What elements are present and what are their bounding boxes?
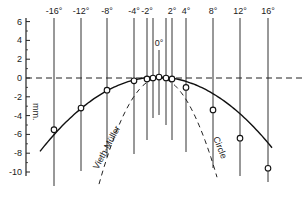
data-point [156, 74, 162, 80]
data-point [210, 107, 216, 113]
data-point [131, 78, 137, 84]
data-point [183, 85, 189, 91]
data-point [150, 75, 156, 81]
data-points [51, 74, 271, 171]
y-tick-label: 6 [17, 17, 22, 27]
angle-labels: -16°-12°-8°-4°-2°0°2°4°8°12°16° [46, 6, 276, 48]
angle-label: 2° [168, 6, 177, 16]
angle-label: 0° [155, 38, 164, 48]
data-point [163, 75, 169, 81]
angle-label: 4° [182, 6, 191, 16]
data-point [78, 105, 84, 111]
y-tick-label: -4 [14, 111, 22, 121]
y-tick-label: -6 [14, 129, 22, 139]
angle-label: 16° [261, 6, 275, 16]
angle-label: 12° [233, 6, 247, 16]
y-tick-label: 2 [17, 54, 22, 64]
angle-label: -16° [46, 6, 63, 16]
data-point [237, 135, 243, 141]
plot-canvas: -16°-12°-8°-4°-2°0°2°4°8°12°16° 6420-2-4… [0, 0, 306, 198]
angle-label: -2° [141, 6, 153, 16]
y-tick-label: -8 [14, 148, 22, 158]
y-tick-label: 0 [17, 73, 22, 83]
data-point [265, 165, 271, 171]
empirical-horopter-curve [40, 77, 272, 151]
horopter-diagram: -16°-12°-8°-4°-2°0°2°4°8°12°16° 6420-2-4… [0, 0, 306, 198]
angle-label: -4° [128, 6, 140, 16]
y-axis-ticks: 6420-2-4-6-8-10 [9, 17, 30, 177]
angle-label: 8° [209, 6, 218, 16]
angle-label: -12° [73, 6, 90, 16]
data-point [51, 127, 57, 133]
y-axis-unit-label: mm. [31, 103, 41, 121]
y-tick-label: -10 [9, 167, 22, 177]
data-point [104, 87, 110, 93]
angle-label: -8° [101, 6, 113, 16]
data-point [144, 76, 150, 82]
y-tick-label: 4 [17, 35, 22, 45]
circle-label: Circle [211, 135, 229, 160]
y-tick-label: -2 [14, 92, 22, 102]
data-point [169, 76, 175, 82]
